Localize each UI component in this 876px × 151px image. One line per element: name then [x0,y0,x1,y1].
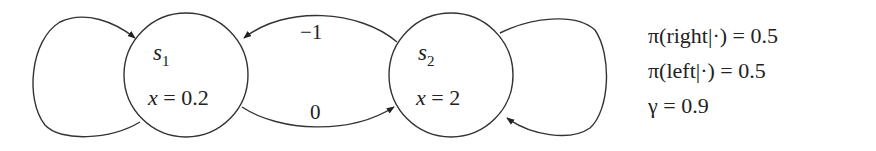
state-s1-value-var: x [148,85,158,110]
state-s2-name: s [418,40,427,65]
state-s1-label: s1 [153,40,169,70]
state-s1-value-eq: = [163,85,175,110]
state-s2-label: s2 [418,40,434,70]
edge-s2-self-loop [500,19,606,136]
state-s2-value-var: x [416,85,426,110]
state-s2-value: x = 2 [416,85,460,111]
discount-gamma-param: γ = 0.9 [648,88,778,123]
policy-left-param: π(left|·) = 0.5 [648,53,778,88]
edge-s1-to-s2-reward: 0 [310,100,321,125]
state-s1-name: s [153,40,162,65]
state-s1-value: x = 0.2 [148,85,209,111]
state-s2-node [389,13,513,137]
state-s2-subscript: 2 [427,53,435,69]
edge-s2-to-s1-reward: −1 [300,20,322,45]
state-s2-value-num: 2 [449,85,460,110]
parameters-panel: π(right|·) = 0.5 π(left|·) = 0.5 γ = 0.9 [648,18,778,123]
state-s1-value-num: 0.2 [181,85,209,110]
state-s2-value-eq: = [431,85,443,110]
policy-right-param: π(right|·) = 0.5 [648,18,778,53]
state-s1-subscript: 1 [162,53,170,69]
state-s1-node [124,13,248,137]
